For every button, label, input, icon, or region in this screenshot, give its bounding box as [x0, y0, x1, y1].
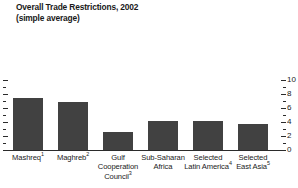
axis-tick-label: 2 [287, 132, 298, 140]
footnote-marker: 5 [267, 161, 270, 167]
axis-tick-label: 10 [287, 76, 298, 84]
axis-tick-minor-right [283, 87, 286, 88]
axis-tick-minor-right [283, 129, 286, 130]
axis-baseline [8, 150, 286, 151]
axis-tick-major-right [281, 94, 286, 95]
axis-tick-label: 4 [287, 118, 298, 126]
bar-sub-saharan-africa [148, 121, 178, 150]
axis-tick-major-left [3, 94, 8, 95]
footnote-marker: 2 [86, 151, 89, 157]
bar-gulf-cooperation-council [103, 132, 133, 150]
footnote-marker: 3 [129, 170, 132, 176]
axis-tick-major-left [3, 136, 8, 137]
axis-tick-minor-left [3, 143, 6, 144]
chart-figure: Overall Trade Restrictions, 2002 (simple… [0, 0, 298, 188]
axis-tick-minor-left [3, 129, 6, 130]
plot-area: 0246810 [0, 0, 298, 152]
bar-maghreb [58, 102, 88, 150]
axis-tick-minor-left [3, 87, 6, 88]
footnote-marker: 1 [41, 151, 44, 157]
bar-mashreq [13, 98, 43, 151]
axis-tick-major-left [3, 122, 8, 123]
category-label-line: East Asia5 [225, 162, 281, 171]
bar-selected-east-asia [238, 124, 268, 150]
axis-tick-label: 6 [287, 104, 298, 112]
category-label-line: Selected [225, 153, 281, 162]
axis-tick-major-right [281, 108, 286, 109]
category-label: SelectedEast Asia5 [225, 153, 281, 172]
bar-selected-latin-america [193, 121, 223, 150]
axis-tick-major-right [281, 80, 286, 81]
axis-tick-minor-right [283, 143, 286, 144]
category-axis-labels: Mashreq1Maghreb2GulfCooperationCouncil3S… [0, 153, 298, 188]
axis-tick-minor-right [283, 101, 286, 102]
axis-tick-major-right [281, 136, 286, 137]
axis-tick-minor-left [3, 115, 6, 116]
axis-tick-major-right [281, 122, 286, 123]
category-label-line: Council3 [90, 172, 146, 181]
axis-tick-minor-right [283, 115, 286, 116]
axis-tick-major-left [3, 108, 8, 109]
axis-tick-label: 8 [287, 90, 298, 98]
axis-tick-major-left [3, 80, 8, 81]
axis-tick-minor-left [3, 101, 6, 102]
